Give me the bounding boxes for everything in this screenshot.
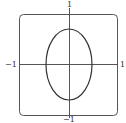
y-top-tick-label: 1 <box>67 1 72 9</box>
y-bottom-tick-label: −1 <box>63 116 75 123</box>
x-right-tick-label: 1 <box>120 61 125 69</box>
plot-canvas <box>0 0 126 123</box>
x-left-tick-label: −1 <box>5 61 17 69</box>
